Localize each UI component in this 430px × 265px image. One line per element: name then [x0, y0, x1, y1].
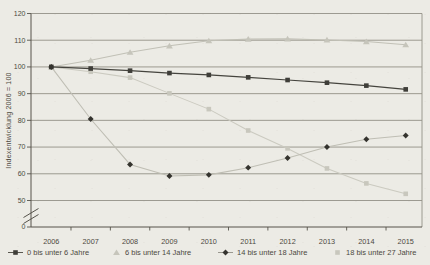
series-line-0-bis-unter-6-jahre — [51, 67, 405, 89]
svg-text:2013: 2013 — [319, 237, 335, 246]
legend-item-18-bis-unter-27: 18 bis unter 27 Jahre — [333, 248, 416, 257]
svg-text:2007: 2007 — [83, 237, 99, 246]
legend-item-6-bis-unter-14: 6 bis unter 14 Jahre — [112, 248, 191, 257]
series-square-light-marker-icon — [333, 248, 342, 257]
legend-label: 18 bis unter 27 Jahre — [346, 248, 416, 257]
legend-label: 0 bis unter 6 Jahre — [27, 248, 89, 257]
y-tick-labels: 12011010090807060500 — [14, 10, 26, 231]
x-axis-ticks-labels: 2006200720082009201020112012201320142015 — [43, 227, 414, 246]
chart-legend: 0 bis unter 6 Jahre 6 bis unter 14 Jahre… — [0, 248, 430, 262]
svg-text:120: 120 — [14, 10, 26, 17]
legend-item-14-bis-unter-18: 14 bis unter 18 Jahre — [218, 248, 307, 257]
svg-text:60: 60 — [18, 170, 26, 177]
svg-text:2006: 2006 — [43, 237, 59, 246]
legend-label: 6 bis unter 14 Jahre — [125, 248, 191, 257]
legend-item-0-bis-unter-6: 0 bis unter 6 Jahre — [8, 248, 89, 257]
svg-text:2010: 2010 — [201, 237, 217, 246]
y-axis-title: Indexentwicklung 2006 = 100 — [5, 56, 12, 186]
legend-label: 14 bis unter 18 Jahre — [237, 248, 307, 257]
svg-text:50: 50 — [18, 197, 26, 204]
svg-text:80: 80 — [18, 117, 26, 124]
series-diamond-marker-icon — [218, 248, 233, 257]
series-line-6-bis-unter-14-jahre — [51, 39, 405, 67]
svg-text:110: 110 — [14, 37, 25, 44]
svg-text:2008: 2008 — [122, 237, 138, 246]
series-line-18-bis-unter-27-jahre — [51, 67, 405, 194]
chart-plot-area: 1201101009080706050020062007200820092010… — [0, 0, 430, 265]
svg-text:70: 70 — [18, 143, 26, 150]
svg-text:100: 100 — [14, 63, 26, 70]
svg-text:2012: 2012 — [279, 237, 295, 246]
series-points-14-bis-unter-18-jahre — [48, 64, 408, 179]
svg-text:90: 90 — [18, 90, 26, 97]
svg-text:2014: 2014 — [358, 237, 374, 246]
scanned-line-chart: 1201101009080706050020062007200820092010… — [0, 0, 430, 265]
series-line-14-bis-unter-18-jahre — [51, 67, 405, 176]
svg-text:2009: 2009 — [161, 237, 177, 246]
svg-text:2011: 2011 — [240, 237, 256, 246]
y-gridlines — [27, 14, 422, 228]
svg-text:2015: 2015 — [398, 237, 414, 246]
series-square-marker-icon — [8, 248, 23, 257]
svg-text:0: 0 — [22, 223, 26, 230]
series-triangle-marker-icon — [112, 248, 121, 257]
